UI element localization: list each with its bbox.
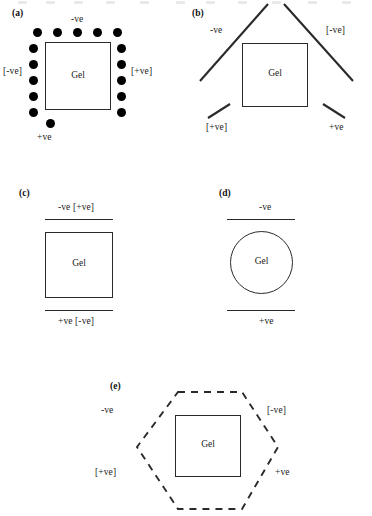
electrode-dot [117,76,126,85]
panel-c-electrode-top-label: -ve [+ve] [58,202,94,212]
electrode-dot [29,44,38,53]
electrode-line-bottom-right [323,104,345,118]
electrode-dot [117,92,126,101]
electrode-dot [29,92,38,101]
panel-a-electrode-bottom-label: +ve [37,132,52,142]
gel-square: Gel [242,43,308,107]
panel-a-label: (a) [12,8,23,18]
electrode-dot [117,44,126,53]
gel-square: Gel [45,42,111,110]
panel-c: (c) -ve [+ve] Gel +ve [-ve] [0,180,186,340]
electrode-line-bottom-left [208,104,230,118]
electrode-dot [46,119,55,128]
panel-e: (e) -ve [-ve] [+ve] +ve Gel [90,375,310,516]
electrode-line-top [45,219,113,220]
panel-a-electrode-top-label: -ve [71,14,83,24]
electrode-dot [29,60,38,69]
electrode-dot [73,28,82,37]
panel-e-electrode-top-left-label: -ve [101,405,113,415]
gel-label: Gel [46,258,112,268]
electrode-dot [53,28,62,37]
panel-d: (d) -ve Gel +ve [186,180,372,340]
gel-label: Gel [46,70,110,80]
electrode-dot [29,76,38,85]
electrode-line-top [227,219,295,220]
panel-b-electrode-bottom-right-label: +ve [329,122,344,132]
panel-b-electrode-top-left-label: -ve [210,25,222,35]
gel-circle: Gel [230,231,293,294]
electrode-dot [113,28,122,37]
electrode-dot [29,108,38,117]
electrophoresis-electrode-configurations-figure: (a) -ve [-ve] [+ve] +ve Gel (b) [0,0,372,516]
panel-c-label: (c) [19,188,30,198]
panel-e-electrode-top-right-label: [-ve] [267,405,286,415]
panel-d-label: (d) [219,188,231,198]
gel-square: Gel [45,232,113,298]
panel-b: (b) -ve [-ve] [+ve] +ve Gel [186,0,372,170]
panel-b-electrode-top-right-label: [-ve] [326,25,345,35]
electrode-line-bottom [45,310,113,311]
panel-e-electrode-bottom-left-label: [+ve] [95,467,116,477]
electrode-dot [117,60,126,69]
gel-label: Gel [243,68,307,78]
electrode-line-bottom [227,310,295,311]
panel-a: (a) -ve [-ve] [+ve] +ve Gel [0,0,186,170]
panel-d-electrode-bottom-label: +ve [259,316,274,326]
electrode-dot [33,28,42,37]
electrode-dot [93,28,102,37]
panel-b-electrode-bottom-left-label: [+ve] [206,122,227,132]
panel-c-electrode-bottom-label: +ve [-ve] [58,316,94,326]
gel-label: Gel [231,256,292,266]
gel-label: Gel [176,439,240,449]
panel-d-electrode-top-label: -ve [259,202,271,212]
panel-a-electrode-right-label: [+ve] [131,66,152,76]
panel-e-electrode-bottom-right-label: +ve [275,467,290,477]
panel-a-electrode-left-label: [-ve] [3,66,22,76]
electrode-dot [117,108,126,117]
gel-square: Gel [175,415,241,477]
